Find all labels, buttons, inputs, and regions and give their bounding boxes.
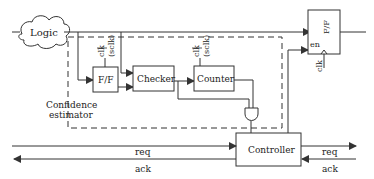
en-label: en	[310, 40, 320, 49]
svg-text:(sclk): (sclk)	[202, 35, 211, 57]
confidence-label-1: Confidence	[46, 100, 97, 110]
ff-left-label: F/F	[98, 75, 114, 85]
req-left-label: req	[135, 147, 151, 157]
logic-label: Logic	[30, 27, 58, 38]
svg-text:clk: clk	[315, 60, 324, 72]
ff-right-label: F/F	[322, 20, 331, 34]
svg-text:clk: clk	[192, 45, 201, 57]
controller-label: Controller	[248, 145, 296, 155]
req-right-label: req	[322, 147, 338, 157]
confidence-label-2: estimator	[49, 110, 93, 120]
svg-text:(sclk): (sclk)	[107, 35, 116, 57]
and-gate	[245, 108, 258, 121]
ack-right-label: ack	[322, 164, 338, 174]
logic-cloud: Logic	[19, 16, 70, 49]
counter-label: Counter	[197, 74, 235, 84]
ack-left-label: ack	[135, 164, 151, 174]
checker-label: Checker	[137, 74, 176, 84]
circuit-diagram: Logic F/F clk (sclk) Checker Counter clk…	[0, 0, 374, 179]
svg-text:clk: clk	[97, 45, 106, 57]
